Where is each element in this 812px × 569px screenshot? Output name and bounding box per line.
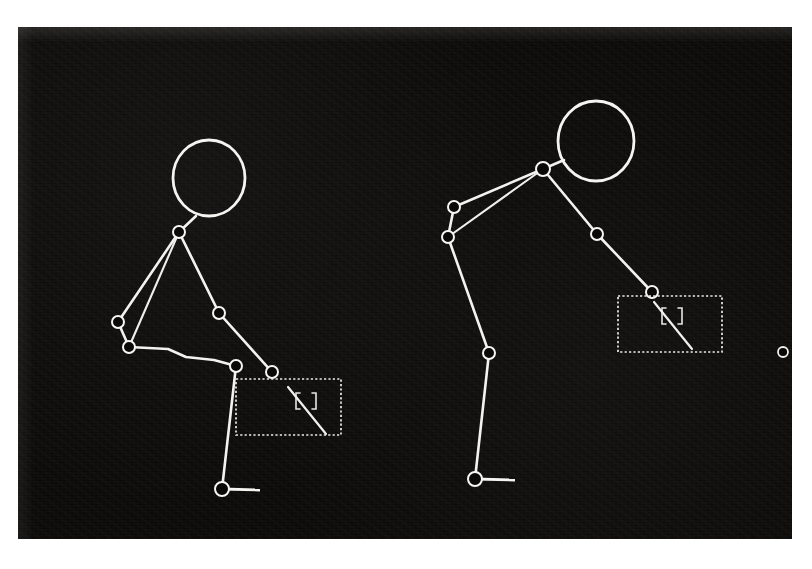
ankle-joint[interactable] bbox=[468, 472, 482, 486]
left-elbow-joint[interactable] bbox=[448, 201, 460, 213]
right-elbow-joint[interactable] bbox=[213, 307, 225, 319]
right-object-group[interactable] bbox=[618, 296, 722, 352]
bone-right-elbow-to-wrist bbox=[597, 234, 652, 292]
left-wrist-joint[interactable] bbox=[123, 341, 135, 353]
bone-neck-to-right-elbow bbox=[543, 169, 597, 234]
neck-joint[interactable] bbox=[173, 226, 185, 238]
head-circle bbox=[558, 101, 634, 181]
bone-torso-to-knee bbox=[448, 237, 489, 353]
neck-joint[interactable] bbox=[536, 162, 550, 176]
object-diagonal bbox=[654, 302, 692, 349]
left-elbow-joint[interactable] bbox=[112, 316, 124, 328]
left-skeleton[interactable] bbox=[112, 140, 341, 496]
right-skeleton[interactable] bbox=[442, 101, 722, 486]
stray-joint-marker[interactable] bbox=[778, 347, 788, 357]
right-skeleton-joints bbox=[442, 162, 658, 486]
left-skeleton-bones bbox=[118, 216, 272, 489]
bone-neck-to-left-wrist bbox=[129, 232, 179, 347]
bone-neck-to-left-elbow bbox=[118, 232, 179, 322]
skeleton-overlay-svg bbox=[18, 27, 792, 539]
figure-stage bbox=[0, 0, 812, 569]
object-diagonal bbox=[288, 387, 326, 434]
hip-joint[interactable] bbox=[230, 360, 242, 372]
black-image-panel bbox=[18, 27, 792, 539]
left-object-group[interactable] bbox=[236, 379, 341, 435]
right-skeleton-bones bbox=[448, 160, 652, 479]
bone-knee-to-ankle bbox=[475, 353, 489, 479]
bone-torso-to-hip bbox=[129, 347, 236, 366]
right-wrist-joint[interactable] bbox=[646, 286, 658, 298]
bone-neck-to-right-elbow bbox=[179, 232, 219, 313]
right-elbow-joint[interactable] bbox=[591, 228, 603, 240]
object-bounding-box[interactable] bbox=[618, 296, 722, 352]
head-circle bbox=[173, 140, 245, 216]
ankle-joint[interactable] bbox=[215, 482, 229, 496]
right-wrist-joint[interactable] bbox=[266, 366, 278, 378]
knee-joint[interactable] bbox=[483, 347, 495, 359]
left-wrist-joint[interactable] bbox=[442, 231, 454, 243]
bone-hip-to-ankle bbox=[222, 366, 236, 489]
